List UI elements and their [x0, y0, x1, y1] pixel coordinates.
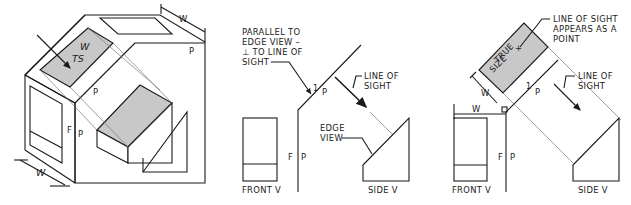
edge-view-panel: PARALLEL TO EDGE VIEW – ⊥ TO LINE OF SIG… — [242, 27, 409, 195]
label-f: F — [288, 152, 293, 162]
note-parallel-1: PARALLEL TO — [242, 27, 301, 37]
fold-label-p: P — [322, 87, 327, 97]
label-p-mid: P — [93, 87, 98, 97]
front-view-rect — [454, 118, 487, 181]
los-label-2: SIGHT — [578, 81, 606, 91]
pictorial-panel: W P W TS P F P W — [14, 4, 205, 186]
front-view-rect — [243, 118, 277, 181]
edge-view-label-1: EDGE — [320, 123, 345, 133]
front-view-caption: FRONT V — [452, 185, 491, 195]
note-parallel-4: SIGHT — [242, 57, 270, 67]
dim-w-inclined: W — [80, 41, 90, 52]
folding-line — [298, 45, 361, 192]
fold-label-p: P — [535, 87, 540, 97]
note-parallel-3: ⊥ TO LINE OF — [242, 47, 303, 57]
dim-w-bottom: W — [36, 167, 46, 178]
label-f: F — [67, 125, 72, 135]
label-p: P — [301, 152, 306, 162]
leader-line — [353, 76, 362, 88]
leader-line — [271, 62, 311, 94]
point-note-2: APPEARS AS A — [553, 24, 617, 34]
point-note-3: POINT — [553, 34, 581, 44]
label-f: F — [498, 152, 503, 162]
front-view-line — [30, 131, 62, 148]
fold-label-1: 1 — [313, 84, 318, 93]
leader-line — [342, 138, 372, 154]
edge-view-label-2: VIEW — [320, 133, 343, 143]
dim-w-top: W — [179, 14, 188, 24]
projection-line — [88, 28, 160, 90]
dim-w-aux: W — [481, 88, 490, 98]
label-ts: TS — [72, 53, 84, 64]
front-view-caption: FRONT V — [242, 185, 281, 195]
point-note-1: LINE OF SIGHT — [553, 14, 619, 24]
line-of-sight-arrow — [554, 84, 580, 110]
true-size-face — [479, 23, 548, 93]
side-view-caption: SIDE V — [578, 185, 608, 195]
projection-line — [370, 112, 393, 135]
side-view-shape — [363, 118, 409, 181]
dim-w-front: W — [472, 104, 481, 114]
point-mark: + — [515, 43, 522, 53]
fold-label-1: 1 — [526, 82, 531, 91]
note-parallel-2: EDGE VIEW – — [242, 37, 300, 47]
line-of-sight-arrow — [335, 77, 366, 107]
true-size-panel: TRUE SIZE + LINE OF SIGHT APPEARS AS A P… — [452, 14, 621, 195]
los-label-2: SIGHT — [364, 81, 392, 91]
leader-line — [564, 76, 575, 88]
auxiliary-view-diagram: W P W TS P F P W PARALLEL TO EDGE VIEW –… — [0, 0, 631, 205]
label-p-fold: P — [78, 129, 83, 139]
side-view-shape — [573, 118, 619, 181]
side-view-caption: SIDE V — [368, 185, 398, 195]
front-view-rect — [30, 86, 62, 163]
top-view-rect — [100, 18, 172, 34]
label-p: P — [510, 152, 515, 162]
los-label-1: LINE OF — [578, 71, 613, 81]
label-p-top: P — [189, 46, 194, 56]
los-label-1: LINE OF — [364, 71, 399, 81]
